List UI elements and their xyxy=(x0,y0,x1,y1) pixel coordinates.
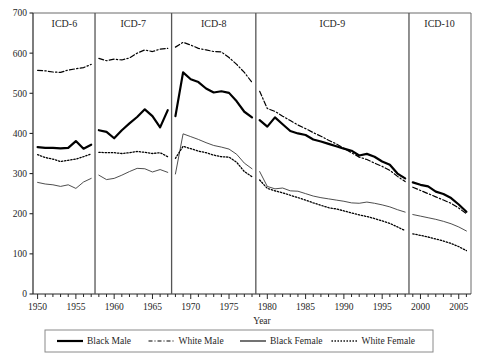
y-tick-label: 600 xyxy=(13,49,28,59)
x-tick-label: 1950 xyxy=(28,302,47,312)
x-tick-label: 1990 xyxy=(334,302,353,312)
series-line-black-male xyxy=(260,117,405,178)
x-tick-label: 1960 xyxy=(105,302,124,312)
series-line-black-female xyxy=(175,134,252,174)
series-line-black-female xyxy=(38,178,92,188)
y-tick-label: 200 xyxy=(13,209,28,219)
series-line-black-female xyxy=(413,215,467,231)
legend-label: Black Female xyxy=(270,336,323,346)
legend-item: Black Female xyxy=(240,336,323,346)
series-line-black-male xyxy=(38,141,92,149)
chart-legend: Black MaleWhite MaleBlack FemaleWhite Fe… xyxy=(45,330,433,352)
y-tick-label: 100 xyxy=(13,249,28,259)
y-tick-label: 300 xyxy=(13,169,28,179)
x-axis-title: Year xyxy=(253,316,271,326)
icd-panel-labels: ICD-6ICD-7ICD-8ICD-9ICD-10 xyxy=(52,18,455,29)
icd-panel-label: ICD-6 xyxy=(52,18,78,29)
legend-item: Black Male xyxy=(57,336,131,346)
x-axis-title-text: Year xyxy=(253,316,271,326)
y-tick-label: 500 xyxy=(13,89,28,99)
chart-container: 0100200300400500600700 19501955196019651… xyxy=(0,0,478,357)
icd-panel-label: ICD-9 xyxy=(320,18,346,29)
series-line-black-male xyxy=(413,182,467,211)
series-line-black-male xyxy=(175,72,252,117)
x-tick-label: 2005 xyxy=(449,302,468,312)
icd-panel-label: ICD-10 xyxy=(424,18,455,29)
icd-panel-dividers xyxy=(95,13,409,294)
y-tick-label: 400 xyxy=(13,129,28,139)
y-tick-label: 0 xyxy=(22,289,27,299)
x-tick-label: 1965 xyxy=(143,302,162,312)
data-series-group xyxy=(38,42,467,250)
x-tick-label: 1975 xyxy=(220,302,239,312)
series-line-white-female xyxy=(413,234,467,251)
series-line-white-female xyxy=(175,146,252,177)
x-tick-label: 2000 xyxy=(411,302,430,312)
legend-label: White Female xyxy=(362,336,416,346)
series-line-white-female xyxy=(99,151,168,156)
series-line-white-male xyxy=(99,48,168,60)
plot-frame xyxy=(33,13,471,294)
x-tick-label: 1980 xyxy=(258,302,277,312)
x-tick-label: 1955 xyxy=(66,302,85,312)
icd-panel-label: ICD-7 xyxy=(121,18,147,29)
series-line-black-female xyxy=(99,168,168,179)
legend-item: White Male xyxy=(149,336,224,346)
series-line-white-male xyxy=(38,64,92,72)
x-axis: 1950195519601965197019751980198519901995… xyxy=(28,294,468,312)
mortality-trend-line-chart: 0100200300400500600700 19501955196019651… xyxy=(0,0,478,357)
legend-item: White Female xyxy=(332,336,416,346)
y-tick-label: 700 xyxy=(13,8,28,18)
series-line-white-female xyxy=(38,154,92,162)
series-line-white-male xyxy=(260,91,405,181)
series-line-white-male xyxy=(413,187,467,213)
icd-panel-label: ICD-8 xyxy=(201,18,227,29)
legend-label: Black Male xyxy=(87,336,131,346)
series-line-black-female xyxy=(260,172,405,213)
x-tick-label: 1970 xyxy=(181,302,200,312)
x-tick-label: 1985 xyxy=(296,302,315,312)
legend-label: White Male xyxy=(179,336,224,346)
x-tick-label: 1995 xyxy=(373,302,392,312)
series-line-black-male xyxy=(99,109,168,138)
y-axis: 0100200300400500600700 xyxy=(13,8,33,299)
